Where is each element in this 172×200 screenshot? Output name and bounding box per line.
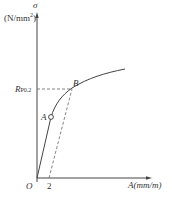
x-tick-2: 2 <box>47 182 52 191</box>
unit-close: ) <box>33 13 36 23</box>
rp02-label: RP0.2 <box>15 85 31 94</box>
origin-label: O <box>26 182 33 191</box>
stress-strain-diagram <box>0 0 172 200</box>
point-b-label: B <box>73 79 79 88</box>
unit-open: (N/mm <box>4 13 30 23</box>
stress-strain-curve <box>37 69 125 178</box>
rp02-sub: P0.2 <box>21 87 32 93</box>
offset-dashed-line <box>49 89 72 178</box>
sigma-label: σ <box>33 1 37 10</box>
point-a-marker-icon <box>49 115 54 120</box>
unit-label: (N/mm2) <box>4 12 36 23</box>
x-axis-label: A(mm/m) <box>128 181 162 190</box>
point-a-label: A <box>41 113 47 122</box>
